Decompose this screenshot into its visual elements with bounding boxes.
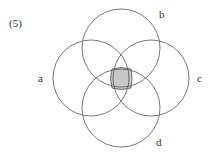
figure-number: (5) (9, 17, 22, 30)
set-d-label: d (156, 136, 162, 148)
set-b-label: b (159, 8, 165, 20)
set-c-label: c (197, 72, 202, 84)
venn-diagram: (5) a b c d (0, 0, 213, 153)
set-a-label: a (38, 72, 43, 84)
